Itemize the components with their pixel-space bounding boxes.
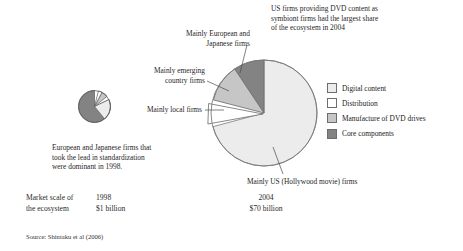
legend-label-manufacture-of-dvd-drives: Manufacture of DVD drives	[342, 114, 426, 123]
pie-2004	[208, 60, 317, 166]
annotation-us-firms: US firms providing DVD content as symbio…	[271, 4, 421, 33]
legend-label-distribution: Distribution	[342, 99, 378, 108]
legend-item-core-components[interactable]: Core components	[327, 128, 459, 140]
legend-item-manufacture-of-dvd-drives[interactable]: Manufacture of DVD drives	[327, 112, 459, 124]
pie-1998	[78, 90, 110, 122]
annotation-mainly-us-firms: Mainly US (Hollywood movie) firms	[247, 177, 407, 187]
legend-label-core-components: Core components	[342, 129, 394, 138]
legend-swatch-manufacture-of-dvd-drives	[327, 113, 337, 123]
market-scale-2004: 2004 $70 billion	[249, 192, 282, 214]
legend-swatch-digital-content	[327, 83, 337, 93]
figure-canvas: US firms providing DVD content as symbio…	[0, 0, 463, 251]
source-note: Source: Shintaku et al (2006)	[26, 233, 103, 240]
annotation-dominant-1998: European and Japanese firms that took th…	[52, 143, 197, 172]
market-scale-label: Market scale of the ecosystem	[26, 192, 73, 214]
legend-item-digital-content[interactable]: Digital content	[327, 82, 459, 94]
legend-swatch-distribution	[327, 98, 337, 108]
legend-item-distribution[interactable]: Distribution	[327, 97, 459, 109]
market-scale-1998: 1998 $1 billion	[96, 192, 125, 214]
annotation-local-firms: Mainly local firms	[108, 105, 202, 115]
legend-label-digital-content: Digital content	[342, 84, 386, 93]
annotation-emerging-country-firms: Mainly emerging country firms	[120, 66, 205, 85]
chart-legend: Digital content Distribution Manufacture…	[327, 82, 459, 143]
annotation-european-japanese-firms: Mainly European and Japanese firms	[150, 29, 250, 48]
legend-swatch-core-components	[327, 129, 337, 139]
